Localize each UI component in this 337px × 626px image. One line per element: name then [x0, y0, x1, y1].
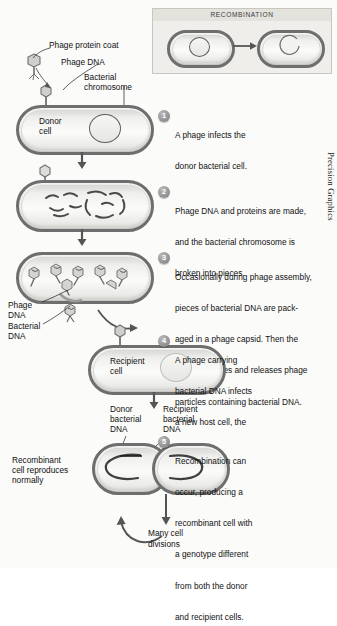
step-1-line-2: donor bacterial cell.: [175, 161, 247, 171]
label-many-cell-divisions-line2: divisions: [148, 539, 180, 549]
inset-chromosome-after: [277, 35, 303, 57]
label-bacterial-dna-line1: Bacterial: [8, 321, 40, 331]
step-4-line-1: A phage carrying: [175, 355, 252, 365]
label-donor-bacterial-dna-line2: bacterial: [110, 414, 141, 424]
label-recombinant-line2: cell reproduces: [12, 465, 68, 475]
step-text-1: A phage infects the donor bacterial cell…: [175, 109, 247, 192]
label-phage-protein-coat: Phage protein coat: [49, 40, 119, 50]
step-5-line-6: and recipient cells.: [175, 612, 252, 622]
label-recombinant-line1: Recombinant: [12, 455, 61, 465]
step-badge-2: 2: [158, 186, 170, 198]
label-bacterial-chromosome-line2: chromosome: [84, 82, 132, 92]
step-5-line-5: from both the donor: [175, 581, 252, 591]
recipient-cell-label-line1: Recipient: [110, 356, 145, 366]
step-4-line-2: bacterial DNA infects: [175, 386, 252, 396]
step-2-line-1: Phage DNA and proteins are made,: [175, 206, 306, 216]
label-recombinant-line3: normally: [12, 475, 43, 485]
label-phage-dna-top: Phage DNA: [61, 57, 105, 67]
step-badge-4: 4: [158, 335, 170, 347]
recipient-cell-label-line2: cell: [110, 366, 122, 376]
credit-text: Precision Graphics: [326, 152, 336, 221]
flow-arrow-1: [76, 152, 90, 170]
label-bacterial-chromosome-line1: Bacterial: [84, 72, 116, 82]
label-recipient-bacterial-dna-line2: bacterial: [163, 414, 194, 424]
step-3-line-1: Occasionally during phage assembly,: [175, 272, 312, 282]
step-2-line-2: and the bacterial chromosome is: [175, 237, 306, 247]
label-recipient-bacterial-dna-line3: DNA: [163, 424, 181, 434]
label-phage-dna-line1: Phage: [8, 300, 32, 310]
step3-label-leaders: [40, 296, 90, 336]
inset-arrow-icon: [233, 41, 259, 53]
donor-cell-label-line2: cell: [39, 126, 51, 136]
flow-arrow-4: [148, 392, 162, 410]
label-phage-dna-line2: DNA: [8, 310, 26, 320]
label-recipient-bacterial-dna-line1: Recipient: [163, 404, 198, 414]
label-many-cell-divisions-line1: Many cell: [148, 528, 183, 538]
label-bacterial-dna-line2: DNA: [8, 331, 26, 341]
step-badge-1: 1: [158, 110, 170, 122]
recombination-inset: RECOMBINATION: [152, 8, 332, 74]
donor-cell: [16, 105, 154, 155]
step-1-line-1: A phage infects the: [175, 130, 247, 140]
donor-cell-label-line1: Donor: [39, 116, 62, 126]
step-5-line-1: Recombination can: [175, 456, 252, 466]
donor-chromosome: [89, 114, 121, 143]
inset-chromosome-before: [189, 37, 210, 57]
label-donor-bacterial-dna-line1: Donor: [110, 404, 133, 414]
step-badge-5: 5: [158, 436, 170, 448]
label-donor-bacterial-dna-line3: DNA: [110, 424, 128, 434]
step-badge-3: 3: [158, 252, 170, 264]
assembled-phages: [22, 257, 144, 295]
broken-chromosome-fragments: [24, 186, 142, 222]
inset-title: RECOMBINATION: [153, 11, 331, 18]
step-3-line-2: pieces of bacterial DNA are pack-: [175, 303, 312, 313]
flow-arrow-2: [76, 229, 90, 247]
